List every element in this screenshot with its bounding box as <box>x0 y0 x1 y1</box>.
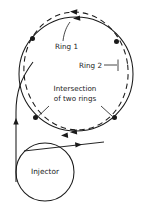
diagram-canvas: Ring 1 Ring 2 Intersection of two rings … <box>0 0 150 210</box>
injector-feed-arrowhead <box>75 142 82 147</box>
intersection-label-line1: Intersection <box>54 84 97 93</box>
ring2-label: Ring 2 <box>79 61 102 70</box>
intersection-point-lower-right <box>112 115 117 120</box>
intersection-label-line2: of two rings <box>54 94 97 103</box>
intersection-point-upper-right <box>114 39 119 44</box>
ring1-leader-line <box>63 22 70 41</box>
injector-label: Injector <box>31 167 60 176</box>
intersection-leader-left <box>39 106 50 116</box>
injector-riser-arrowhead <box>13 118 18 125</box>
ring1-label: Ring 1 <box>55 42 78 51</box>
intersection-point-upper-left <box>30 36 35 41</box>
ring2-arrowhead-top <box>70 9 77 15</box>
ring1-arrowhead-top <box>73 15 80 20</box>
ring2-arrowhead-bottom <box>61 133 68 138</box>
intersection-leader-right <box>101 106 112 116</box>
intersection-point-lower-left <box>33 115 38 120</box>
